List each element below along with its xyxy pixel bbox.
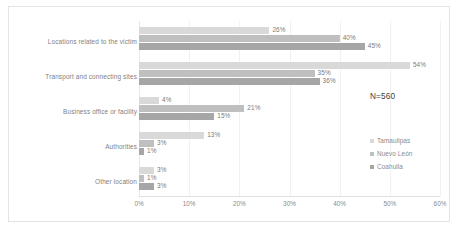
bar-value-label: 3% <box>157 139 166 146</box>
category-label: Transport and connecting sites <box>45 72 137 79</box>
bar-value-label: 3% <box>157 182 166 189</box>
bar-value-label: 35% <box>318 69 331 76</box>
bar-value-label: 45% <box>368 42 381 49</box>
category-label: Business office or facility <box>63 107 137 114</box>
bar <box>139 27 269 34</box>
legend-item-tamaulipas[interactable]: Tamaulipas <box>370 134 446 147</box>
legend-label: Coahuila <box>377 163 403 170</box>
bar-value-label: 54% <box>413 61 426 68</box>
bar <box>139 148 144 155</box>
bar <box>139 175 144 182</box>
legend-swatch-icon <box>370 139 374 143</box>
chart-container: Locations related to the victim26%40%45%… <box>8 6 450 222</box>
bar-value-label: 1% <box>147 174 156 181</box>
bar <box>139 62 410 69</box>
bar-value-label: 26% <box>272 26 285 33</box>
bar <box>139 78 320 85</box>
x-tick-label: 20% <box>233 200 246 207</box>
bar <box>139 43 365 50</box>
bar-value-label: 40% <box>343 34 356 41</box>
bar <box>139 132 204 139</box>
legend-item-coahuila[interactable]: Coahuila <box>370 160 446 173</box>
bar-group: Transport and connecting sites54%35%36% <box>9 58 451 93</box>
bar-value-label: 13% <box>207 131 220 138</box>
bar-value-label: 36% <box>323 77 336 84</box>
bars-wrapper: 4%21%15% <box>139 93 451 128</box>
x-axis-line <box>139 196 440 197</box>
legend-swatch-icon <box>370 165 374 169</box>
x-tick-label: 40% <box>333 200 346 207</box>
chart-legend: TamaulipasNuevo LeónCoahuila <box>370 134 446 173</box>
legend-label: Tamaulipas <box>377 137 410 144</box>
x-tick-label: 60% <box>434 200 447 207</box>
bar <box>139 183 154 190</box>
bar-group: Locations related to the victim26%40%45% <box>9 23 451 58</box>
bar <box>139 113 214 120</box>
category-label: Locations related to the victim <box>48 37 137 44</box>
bar <box>139 35 340 42</box>
legend-item-nuevo-león[interactable]: Nuevo León <box>370 147 446 160</box>
sample-size-annotation: N=560 <box>370 92 395 101</box>
plot-area: Locations related to the victim26%40%45%… <box>9 7 451 223</box>
bar <box>139 70 315 77</box>
bar <box>139 167 154 174</box>
bar <box>139 105 244 112</box>
bar-value-label: 21% <box>247 104 260 111</box>
bar-value-label: 15% <box>217 112 230 119</box>
bar <box>139 140 154 147</box>
bar-value-label: 1% <box>147 147 156 154</box>
x-tick-label: 0% <box>134 200 143 207</box>
category-label: Other location <box>95 177 137 184</box>
bars-wrapper: 54%35%36% <box>139 58 451 93</box>
category-label: Authorities <box>105 142 137 149</box>
legend-label: Nuevo León <box>377 150 412 157</box>
bar-value-label: 4% <box>162 96 171 103</box>
bar <box>139 97 159 104</box>
bars-wrapper: 26%40%45% <box>139 23 451 58</box>
x-tick-label: 50% <box>383 200 396 207</box>
x-tick-label: 10% <box>183 200 196 207</box>
bar-value-label: 3% <box>157 166 166 173</box>
legend-swatch-icon <box>370 152 374 156</box>
x-tick-label: 30% <box>283 200 296 207</box>
